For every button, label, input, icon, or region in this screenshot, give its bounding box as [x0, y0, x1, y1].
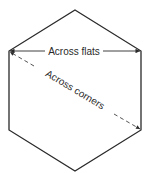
across-corners-arrow-end	[114, 114, 140, 129]
across-flats-label: Across flats	[48, 46, 100, 57]
across-corners-arrow-start	[10, 52, 34, 66]
across-corners-label: Across corners	[44, 68, 107, 112]
hexagon-diagram: Across flats Across corners	[0, 0, 147, 173]
